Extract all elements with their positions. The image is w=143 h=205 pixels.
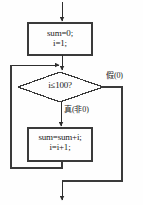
node-init-line-2: i=1; [28,39,92,49]
edge-label-true: 真(非0) [64,103,89,114]
node-condition-label: i≤100? [26,81,94,91]
node-init-label: sum=0; i=1; [28,29,92,48]
node-body-line-2: i=i+1; [26,143,94,153]
edge-label-false: 假(0) [106,69,123,80]
node-body-label: sum=sum+i; i=i+1; [26,133,94,152]
node-condition-line-1: i≤100? [26,81,94,91]
flowchart-diagram: sum=0; i=1; i≤100? sum=sum+i; i=i+1; 假(0… [0,0,143,205]
